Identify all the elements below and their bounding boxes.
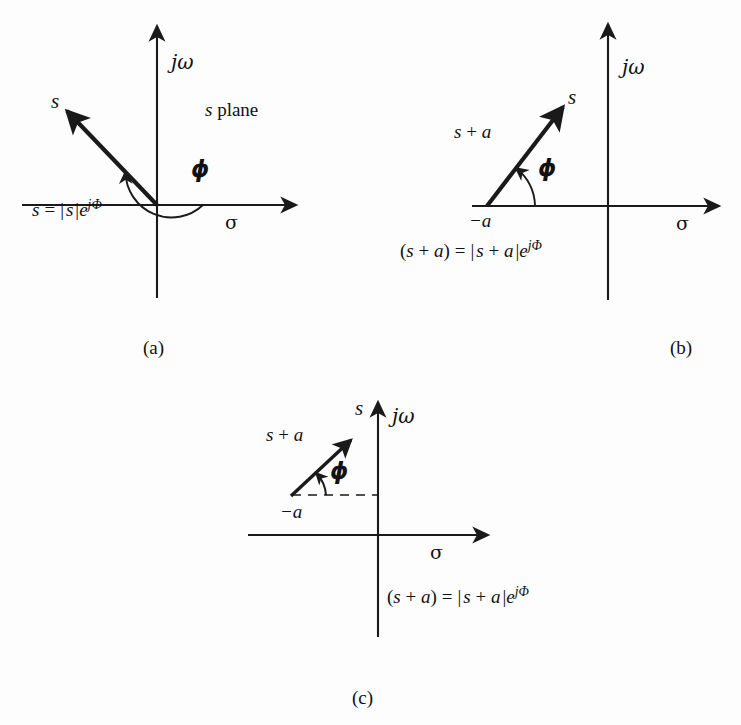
panel-caption-a: (a) — [143, 338, 164, 357]
axis-label-sigma-b: σ — [676, 214, 689, 233]
panel-b: jω σ s s + a ϕ −a (s + a)=|s + a|ejΦ (b) — [370, 0, 741, 370]
equation-c-lhs-s: s — [393, 586, 400, 607]
equation-b-equals: = — [455, 240, 466, 261]
vector-label-s-b: s — [568, 87, 576, 108]
vector-label-s-a: s — [51, 91, 59, 112]
figure-canvas: jω σ s ϕ s plane s=|s|ejΦ (a) — [0, 0, 741, 725]
equation-b-lhs-s: s — [406, 240, 413, 261]
equation-a: s=|s|ejΦ — [32, 198, 102, 219]
equation-c-mag-s: s — [463, 586, 470, 607]
axis-label-jomega-c: jω — [392, 406, 415, 426]
angle-arc-c — [317, 474, 327, 496]
panel-caption-c: (c) — [352, 688, 373, 707]
equation-c-close: ) — [430, 586, 436, 607]
equation-b-close: ) — [443, 240, 449, 261]
equation-c-mag-a: a — [491, 586, 501, 607]
equation-b-bar-open: | — [471, 240, 475, 261]
equation-c: (s + a)=|s + a|ejΦ — [387, 585, 529, 606]
vector-side-label-c-plus: + — [273, 424, 293, 445]
vector-side-label-b-plus: + — [461, 121, 481, 142]
pole-label-c-text: −a — [280, 501, 302, 522]
equation-a-exp-sup: jΦ — [88, 197, 102, 212]
s-plane-label-a: s plane — [205, 100, 258, 119]
equation-b-lhs-plus: + — [414, 240, 434, 261]
equation-a-lhs: s — [32, 199, 39, 220]
panel-a: jω σ s ϕ s plane s=|s|ejΦ (a) — [0, 0, 370, 370]
equation-c-lhs-plus: + — [401, 586, 421, 607]
equation-c-mag-plus: + — [471, 586, 491, 607]
equation-a-bar-open: | — [60, 199, 64, 220]
angle-label-phi-a: ϕ — [191, 158, 209, 181]
s-plane-label-text-a: plane — [212, 99, 258, 120]
axis-label-sigma-a: σ — [225, 213, 238, 232]
equation-a-exp-base: e — [79, 199, 87, 220]
panel-c-diagram — [0, 370, 741, 725]
vector-side-label-c-a: a — [294, 424, 304, 445]
axis-label-sigma-c: σ — [430, 543, 443, 562]
equation-b-mag-s: s — [476, 240, 483, 261]
equation-b: (s + a)=|s + a|ejΦ — [400, 239, 542, 260]
pole-label-c: −a — [280, 502, 302, 521]
pole-label-b-text: −a — [469, 210, 491, 231]
angle-label-phi-c: ϕ — [330, 460, 348, 483]
panel-caption-b: (b) — [670, 338, 692, 357]
vector-side-label-b-a: a — [482, 121, 492, 142]
equation-b-exp-sup: jΦ — [528, 238, 542, 253]
equation-b-mag-a: a — [504, 240, 514, 261]
equation-a-equals: = — [44, 199, 55, 220]
equation-a-magnitude: s — [66, 199, 73, 220]
panel-c: jω σ s s + a ϕ −a (s + a)=|s + a|ejΦ (c) — [0, 370, 741, 725]
equation-c-equals: = — [442, 586, 453, 607]
pole-label-b: −a — [469, 211, 491, 230]
vector-side-label-c: s + a — [266, 425, 303, 444]
axis-label-jomega-a: jω — [171, 52, 194, 72]
equation-b-mag-plus: + — [484, 240, 504, 261]
vector-s-a — [67, 111, 157, 205]
axis-label-jomega-b: jω — [622, 57, 645, 77]
equation-c-exp-sup: jΦ — [515, 584, 529, 599]
vector-side-label-b: s + a — [454, 122, 491, 141]
equation-b-exp-base: e — [519, 240, 527, 261]
equation-c-exp-base: e — [506, 586, 514, 607]
angle-label-phi-b: ϕ — [538, 157, 556, 180]
angle-arc-b — [517, 169, 536, 207]
vector-label-s-c: s — [355, 398, 363, 419]
equation-c-bar-open: | — [458, 586, 462, 607]
panel-b-diagram — [370, 0, 741, 370]
